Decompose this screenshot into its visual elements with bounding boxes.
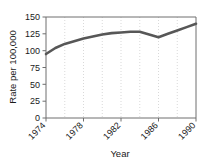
xtick-label-1978: 1978 — [64, 120, 85, 141]
ytick-label-125: 125 — [25, 29, 40, 39]
x-axis-ticks — [46, 118, 196, 122]
ytick-label-150: 150 — [25, 12, 40, 22]
ytick-label-25: 25 — [30, 96, 40, 106]
xtick-label-1986: 1986 — [139, 120, 160, 141]
xtick-label-1982: 1982 — [101, 120, 122, 141]
ytick-label-50: 50 — [30, 80, 40, 90]
line-chart-figure: 0 25 50 75 100 125 150 1974 1978 1982 19… — [0, 0, 211, 165]
x-axis-tick-labels: 1974 1978 1982 1986 1990 — [26, 120, 197, 141]
ytick-label-100: 100 — [25, 46, 40, 56]
x-axis-title: Year — [110, 148, 129, 159]
ytick-label-75: 75 — [30, 63, 40, 73]
chart-canvas: 0 25 50 75 100 125 150 1974 1978 1982 19… — [0, 0, 211, 165]
xtick-label-1990: 1990 — [176, 120, 197, 141]
y-axis-tick-labels: 0 25 50 75 100 125 150 — [25, 12, 40, 123]
y-axis-ticks — [43, 17, 47, 118]
xtick-label-1974: 1974 — [26, 120, 47, 141]
y-axis-title: Rate per 100,000 — [7, 30, 18, 103]
